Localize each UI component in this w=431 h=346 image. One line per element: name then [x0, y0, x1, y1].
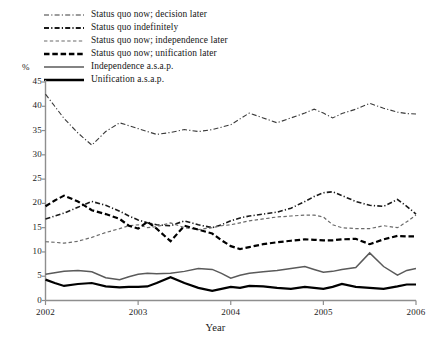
- x-axis-title: Year: [0, 322, 431, 333]
- y-axis-tick-label: 35: [20, 125, 42, 135]
- series-line-2: [46, 215, 417, 243]
- x-axis-tick-label: 2002: [24, 307, 68, 317]
- series-line-5: [46, 277, 417, 291]
- chart-plot-area: [0, 0, 431, 346]
- y-axis-tick-label: 15: [20, 222, 42, 232]
- y-axis-tick-label: 0: [20, 295, 42, 305]
- x-axis-tick-label: 2006: [394, 307, 431, 317]
- y-axis-tick-label: 45: [20, 76, 42, 86]
- series-line-4: [46, 253, 417, 280]
- y-axis-tick-label: 20: [20, 197, 42, 207]
- series-line-0: [46, 94, 417, 145]
- y-axis-tick-label: 5: [20, 270, 42, 280]
- x-axis-tick-label: 2004: [209, 307, 253, 317]
- series-line-1: [46, 192, 417, 228]
- y-axis-unit-label: %: [22, 62, 30, 72]
- y-axis-tick-label: 10: [20, 246, 42, 256]
- x-axis-tick-label: 2003: [116, 307, 160, 317]
- series-line-3: [46, 196, 417, 249]
- chart-svg: [0, 0, 431, 346]
- x-axis-tick-label: 2005: [301, 307, 345, 317]
- y-axis-tick-label: 30: [20, 149, 42, 159]
- y-axis-tick-label: 40: [20, 100, 42, 110]
- chart-figure: Status quo now; decision laterStatus quo…: [0, 0, 431, 346]
- y-axis-tick-label: 25: [20, 173, 42, 183]
